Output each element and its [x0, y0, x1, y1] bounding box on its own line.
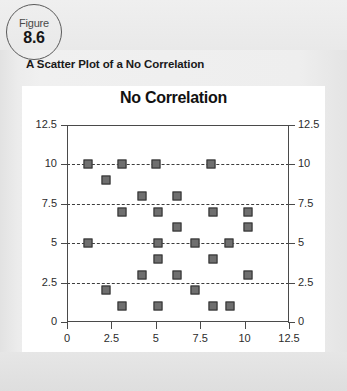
data-point: [102, 286, 111, 295]
data-point: [118, 160, 127, 169]
data-point: [84, 160, 93, 169]
y-axis-tick-left: [61, 204, 68, 205]
data-point: [173, 191, 182, 200]
data-point: [190, 239, 199, 248]
data-point: [244, 270, 253, 279]
y-axis-tick-right: [288, 204, 295, 205]
y-axis-label-left: 10: [45, 157, 57, 169]
data-point: [244, 207, 253, 216]
y-axis-tick-left: [61, 243, 68, 244]
data-point: [190, 286, 199, 295]
data-point: [244, 223, 253, 232]
data-point: [137, 191, 146, 200]
x-axis-tick: [111, 322, 112, 329]
figure-badge: Figure 8.6: [6, 4, 62, 60]
data-point: [118, 302, 127, 311]
y-axis-label-left: 12.5: [36, 118, 57, 130]
x-axis-label: 0: [64, 332, 70, 344]
x-axis-label: 12.5: [278, 332, 299, 344]
x-axis-tick: [156, 322, 157, 329]
chart-title: No Correlation: [22, 89, 325, 107]
y-axis-label-right: 10: [298, 157, 310, 169]
gridline: [67, 283, 289, 284]
x-axis-tick: [245, 322, 246, 329]
y-axis-label-right: 7.5: [298, 197, 313, 209]
y-axis-label-left: 7.5: [42, 197, 57, 209]
x-axis-label: 7.5: [193, 332, 208, 344]
y-axis-label-right: 2.5: [298, 276, 313, 288]
gridline: [67, 204, 289, 205]
data-point: [206, 160, 215, 169]
data-point: [173, 223, 182, 232]
data-point: [208, 207, 217, 216]
figure-number: 8.6: [23, 29, 44, 46]
x-axis-label: 5: [153, 332, 159, 344]
y-axis-tick-left: [61, 164, 68, 165]
y-axis-tick-right: [288, 283, 295, 284]
data-point: [153, 207, 162, 216]
y-axis-tick-right: [288, 243, 295, 244]
data-point: [224, 239, 233, 248]
data-point: [173, 270, 182, 279]
data-point: [102, 176, 111, 185]
y-axis-tick-right: [288, 164, 295, 165]
x-axis-tick: [67, 322, 68, 329]
data-point: [137, 270, 146, 279]
y-axis-label-left: 0: [51, 315, 57, 327]
y-axis-label-right: 5: [298, 236, 304, 248]
y-axis-label-left: 5: [51, 236, 57, 248]
chart-panel: No Correlation 002.52.5557.57.5101012.51…: [22, 86, 325, 352]
x-axis-label: 10: [238, 332, 250, 344]
data-point: [226, 302, 235, 311]
x-axis-label: 2.5: [104, 332, 119, 344]
page-bottom-band: [0, 352, 347, 391]
data-point: [84, 239, 93, 248]
figure-caption: A Scatter Plot of a No Correlation: [26, 58, 204, 70]
gridline: [67, 243, 289, 244]
y-axis-tick-left: [61, 283, 68, 284]
data-point: [208, 254, 217, 263]
data-point: [153, 254, 162, 263]
gridline: [67, 164, 289, 165]
x-axis-tick: [200, 322, 201, 329]
figure-label: Figure: [19, 18, 49, 29]
y-axis-label-right: 0: [298, 315, 304, 327]
y-axis-tick-left: [61, 125, 68, 126]
data-point: [151, 160, 160, 169]
y-axis-label-right: 12.5: [298, 118, 319, 130]
y-axis-tick-right: [288, 125, 295, 126]
y-axis-label-left: 2.5: [42, 276, 57, 288]
data-point: [208, 302, 217, 311]
data-point: [118, 207, 127, 216]
x-axis-tick: [289, 322, 290, 329]
data-point: [153, 302, 162, 311]
data-point: [153, 239, 162, 248]
